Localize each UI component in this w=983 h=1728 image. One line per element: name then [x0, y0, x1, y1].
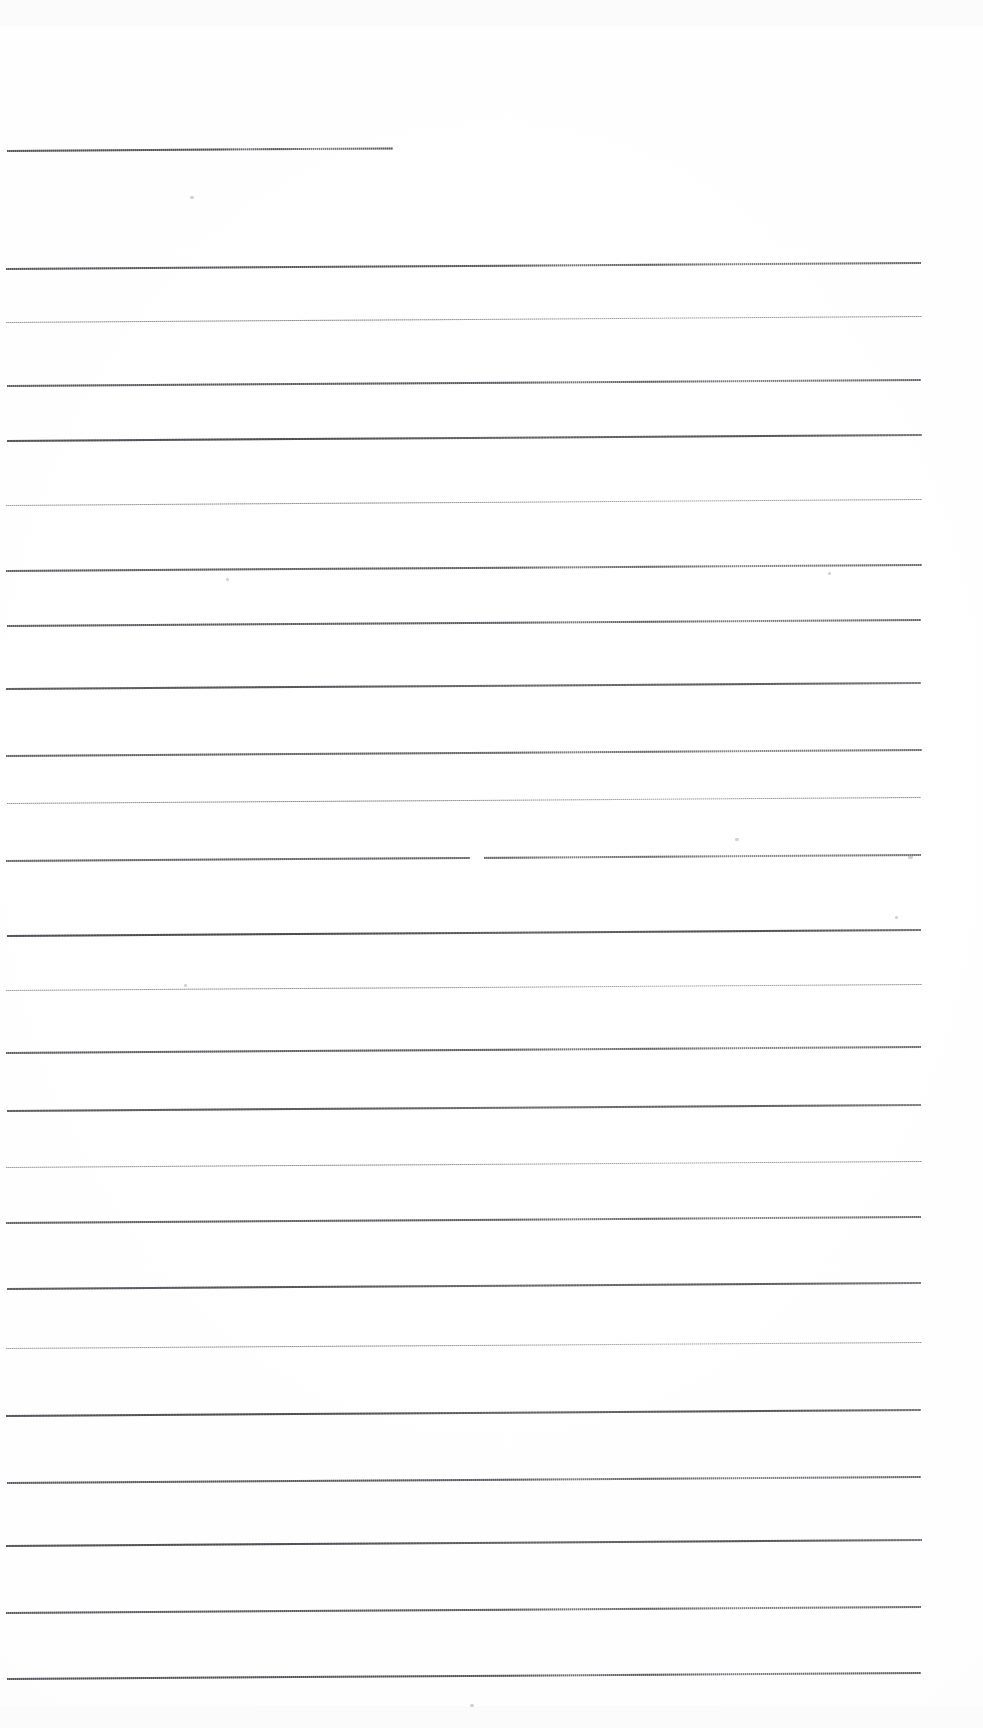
ruled-line-24: [6, 1606, 921, 1614]
ruled-line-ink: [6, 262, 921, 270]
ruled-line-ink: [6, 316, 922, 323]
ruled-line-5: [7, 434, 922, 442]
ruled-line-ink: [7, 379, 921, 387]
ruled-line-ink: [6, 564, 922, 572]
ruled-line-ink: [7, 1104, 921, 1112]
ruled-line-4: [7, 379, 921, 387]
scan-band-bottom-artifact: [0, 1706, 983, 1728]
speck-right-upper: [895, 916, 898, 919]
ruled-line-ink: [6, 1539, 922, 1547]
page-caption: No handwriting, printed text, headings o…: [0, 0, 1, 1]
scanned-page: No handwriting, printed text, headings o…: [0, 0, 983, 1728]
scan-band-top-artifact: [0, 0, 983, 26]
ruled-line-10: [6, 749, 922, 757]
ruled-line-ink: [6, 1216, 921, 1224]
ruled-line-22: [7, 1476, 921, 1484]
ruled-line-21: [6, 1409, 921, 1417]
ruled-line-13: [7, 929, 921, 937]
ruled-line-ink: [7, 147, 393, 151]
speck-left-low: [184, 984, 187, 987]
ruled-line-ink: [6, 1606, 921, 1614]
ruled-line-2: [6, 262, 921, 270]
ruled-line-ink: [7, 1282, 921, 1290]
ruled-line-15: [6, 1046, 921, 1054]
ruled-line-ink: [6, 1342, 922, 1349]
ruled-line-7: [6, 564, 922, 572]
speck-bottom: [470, 1704, 474, 1707]
gap-rule-13: [797, 932, 806, 936]
ruled-line-12: [6, 854, 921, 862]
ruled-line-20: [6, 1342, 922, 1349]
ruled-line-18: [6, 1216, 921, 1224]
ruled-line-11: [7, 797, 921, 804]
ruled-line-ink: [7, 619, 921, 627]
ruled-line-ink: [7, 797, 921, 804]
ruled-line-ink: [6, 1046, 921, 1054]
ruled-line-ink: [6, 1161, 922, 1168]
ruled-line-ink: [6, 1409, 921, 1417]
ruled-line-ink: [6, 499, 922, 506]
speck-upper-left: [190, 196, 194, 199]
ruled-line-ink: [6, 854, 921, 862]
ruled-line-8: [7, 619, 921, 627]
ruled-line-14: [6, 984, 922, 991]
speck-right-edge: [828, 572, 831, 575]
speck-mid-low: [735, 838, 739, 841]
ruled-line-23: [6, 1539, 922, 1547]
ruled-line-16: [7, 1104, 921, 1112]
ruled-line-1: [7, 147, 393, 151]
speck-mid-left: [226, 578, 229, 581]
speck-near-rule-13: [908, 855, 913, 859]
ruled-line-ink: [7, 1476, 921, 1484]
ruled-line-3: [6, 316, 922, 323]
ruled-line-17: [6, 1161, 922, 1168]
ruled-line-ink: [6, 749, 922, 757]
ruled-line-25: [7, 1672, 921, 1680]
ruled-line-19: [7, 1282, 921, 1290]
ruled-line-6: [6, 499, 922, 506]
ruled-line-ink: [6, 984, 922, 991]
ruled-line-ink: [7, 1672, 921, 1680]
ruled-line-9: [6, 682, 921, 690]
ruled-line-ink: [7, 434, 922, 442]
ruled-line-ink: [6, 682, 921, 690]
ruled-line-ink: [7, 929, 921, 937]
paper-surface: [0, 0, 983, 1728]
